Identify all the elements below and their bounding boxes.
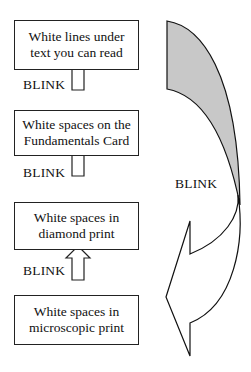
box-label: White spaces on the Fundamentals Card [18,117,135,149]
blink-label: BLINK [23,263,65,279]
curved-arrow-bottom-icon [166,195,240,356]
box-label: White spaces in microscopic print [18,304,135,336]
box-white-lines: White lines under text you can read [14,20,139,70]
box-microscopic-print: White spaces in microscopic print [14,295,139,345]
box-fundamentals-card: White spaces on the Fundamentals Card [14,110,139,156]
curved-blink-label: BLINK [175,176,217,192]
box-label: White spaces in diamond print [18,210,135,242]
blink-label: BLINK [23,77,65,93]
box-diamond-print: White spaces in diamond print [14,202,139,250]
up-arrow-icon [66,246,90,280]
box-label: White lines under text you can read [18,29,135,61]
blink-label: BLINK [23,165,65,181]
